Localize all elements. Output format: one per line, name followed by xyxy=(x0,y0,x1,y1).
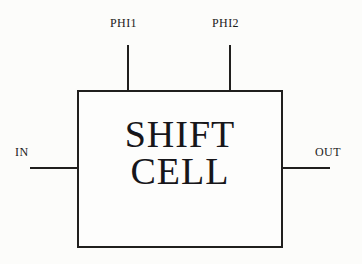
wire-out xyxy=(281,167,330,169)
wire-phi1 xyxy=(127,45,129,91)
block-label-line-2: CELL xyxy=(131,153,230,189)
wire-phi2 xyxy=(229,45,231,91)
port-label-out: OUT xyxy=(315,145,341,160)
port-label-in: IN xyxy=(15,145,28,160)
port-label-phi1: PHI1 xyxy=(110,16,137,31)
block-label-line-1: SHIFT xyxy=(125,116,236,152)
shift-cell-block-label: SHIFT CELL xyxy=(77,100,283,205)
shift-cell-diagram: SHIFT CELL PHI1 PHI2 IN OUT xyxy=(0,0,362,264)
port-label-phi2: PHI2 xyxy=(212,16,239,31)
wire-in xyxy=(30,167,79,169)
